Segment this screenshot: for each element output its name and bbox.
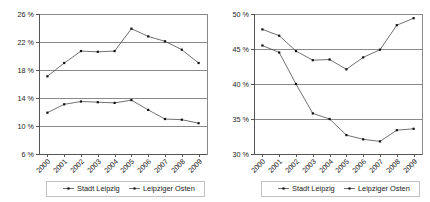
series-marker-2 — [80, 50, 82, 52]
series-marker-1 — [329, 58, 331, 60]
series-marker-2 — [413, 128, 415, 130]
x-tick-label: 2009 — [186, 157, 204, 175]
series-marker-2 — [261, 44, 263, 46]
right-chart-panel: 50 %45 %40 %35 %30 %20002001200220032004… — [215, 0, 430, 202]
right-chart-svg: 50 %45 %40 %35 %30 %20002001200220032004… — [215, 0, 430, 202]
series-marker-1 — [97, 101, 99, 103]
x-tick-label: 2007 — [367, 157, 385, 175]
series-marker-1 — [396, 24, 398, 26]
series-marker-2 — [164, 40, 166, 42]
series-marker-2 — [295, 83, 297, 85]
series-marker-2 — [130, 28, 132, 30]
series-marker-1 — [114, 102, 116, 104]
y-tick-label: 14 % — [18, 94, 35, 103]
series-marker-2 — [181, 49, 183, 51]
series-marker-2 — [97, 51, 99, 53]
y-tick-label: 18 % — [18, 66, 35, 75]
series-marker-1 — [147, 109, 149, 111]
plot-area-border — [40, 15, 208, 155]
series-marker-2 — [278, 51, 280, 53]
series-marker-2 — [396, 129, 398, 131]
series-marker-2 — [147, 35, 149, 37]
series-line-2 — [262, 46, 413, 142]
series-line-2 — [47, 29, 198, 77]
x-tick-label: 2008 — [169, 157, 187, 175]
series-marker-2 — [329, 118, 331, 120]
series-marker-2 — [198, 62, 200, 64]
y-tick-label: 10 % — [18, 122, 35, 131]
y-tick-label: 6 % — [22, 150, 35, 159]
series-marker-2 — [312, 112, 314, 114]
x-tick-label: 2006 — [135, 157, 153, 175]
series-marker-2 — [362, 138, 364, 140]
x-tick-label: 2004 — [317, 157, 335, 175]
series-marker-1 — [261, 28, 263, 30]
series-marker-1 — [379, 49, 381, 51]
series-marker-2 — [345, 134, 347, 136]
series-marker-1 — [345, 68, 347, 70]
series-marker-2 — [46, 75, 48, 77]
legend-series-2-label: Leipziger Osten — [143, 184, 195, 193]
x-tick-label: 2008 — [384, 157, 402, 175]
series-marker-1 — [413, 17, 415, 19]
series-marker-1 — [198, 122, 200, 124]
series-marker-1 — [130, 99, 132, 101]
y-tick-label: 50 % — [233, 10, 250, 19]
legend-series-2-marker-swatch — [348, 187, 350, 189]
series-marker-1 — [164, 118, 166, 120]
x-tick-label: 2003 — [85, 157, 103, 175]
legend-series-1-marker-swatch — [282, 187, 284, 189]
x-tick-label: 2001 — [266, 157, 284, 175]
legend-series-1-marker-swatch — [67, 187, 69, 189]
series-marker-2 — [379, 140, 381, 142]
x-tick-label: 2001 — [51, 157, 69, 175]
y-tick-label: 45 % — [233, 45, 250, 54]
y-tick-label: 35 % — [233, 115, 250, 124]
x-tick-label: 2005 — [333, 157, 351, 175]
x-tick-label: 2002 — [68, 157, 86, 175]
series-line-1 — [262, 18, 413, 69]
x-tick-label: 2002 — [283, 157, 301, 175]
dual-line-chart-figure: 26 %22 %18 %14 %10 %6 %20002001200220032… — [0, 0, 430, 202]
series-line-1 — [47, 100, 198, 123]
x-tick-label: 2004 — [102, 157, 120, 175]
series-marker-2 — [63, 62, 65, 64]
left-chart-svg: 26 %22 %18 %14 %10 %6 %20002001200220032… — [0, 0, 215, 202]
x-tick-label: 2006 — [350, 157, 368, 175]
series-marker-1 — [181, 119, 183, 121]
y-tick-label: 30 % — [233, 150, 250, 159]
x-tick-label: 2009 — [401, 157, 419, 175]
x-tick-label: 2003 — [300, 157, 318, 175]
series-marker-1 — [80, 100, 82, 102]
x-tick-label: 2007 — [152, 157, 170, 175]
y-tick-label: 26 % — [18, 10, 35, 19]
left-chart-panel: 26 %22 %18 %14 %10 %6 %20002001200220032… — [0, 0, 215, 202]
series-marker-1 — [46, 112, 48, 114]
x-tick-label: 2000 — [34, 157, 52, 175]
legend-series-1-label: Stadt Leipzig — [77, 184, 120, 193]
series-marker-1 — [63, 103, 65, 105]
y-tick-label: 22 % — [18, 38, 35, 47]
legend-series-1-label: Stadt Leipzig — [292, 184, 335, 193]
series-marker-1 — [295, 50, 297, 52]
x-tick-label: 2005 — [118, 157, 136, 175]
series-marker-1 — [362, 56, 364, 58]
x-tick-label: 2000 — [249, 157, 267, 175]
series-marker-1 — [278, 35, 280, 37]
y-tick-label: 40 % — [233, 80, 250, 89]
series-marker-1 — [312, 59, 314, 61]
legend-series-2-label: Leipziger Osten — [358, 184, 410, 193]
series-marker-2 — [114, 50, 116, 52]
legend-series-2-marker-swatch — [133, 187, 135, 189]
